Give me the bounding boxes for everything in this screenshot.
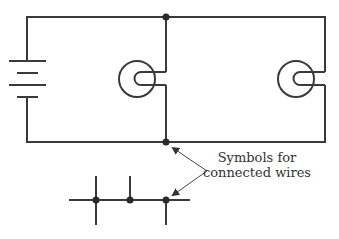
junction-dot-icon [163, 14, 170, 21]
circuit-svg [0, 0, 339, 239]
caption-line-1: Symbols for [202, 150, 312, 165]
battery-icon [9, 61, 46, 97]
light-bulb-icon [278, 61, 325, 97]
circuit-diagram: Symbols for connected wires [0, 0, 339, 239]
caption-line-2: connected wires [202, 165, 312, 180]
junction-dot-icon [163, 139, 170, 146]
annotation-caption: Symbols for connected wires [202, 150, 312, 180]
wire-right-lower [27, 85, 325, 142]
junction-dot-icon [127, 197, 134, 204]
wire-left-loop [27, 17, 325, 72]
light-bulb-icon [119, 61, 166, 97]
junction-dot-icon [93, 197, 100, 204]
junction-dot-icon [163, 197, 170, 204]
